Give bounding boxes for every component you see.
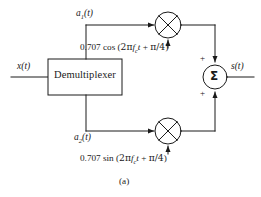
carrier-cos-two-pi: 2π (121, 41, 133, 52)
signal-output-arg: (t) (235, 61, 244, 71)
carrier-sin-two-pi: 2π (119, 152, 131, 163)
carrier-sin-close-paren: ) (164, 153, 167, 163)
carrier-cos-function: cos (103, 42, 115, 52)
carrier-expression-sine: 0.707 sin (2πfct + π/4) (80, 153, 167, 165)
summer-plus-sign-top: + (200, 54, 205, 63)
demultiplexer-label: Demultiplexer (54, 70, 116, 81)
summer-plus-sign-bottom: + (200, 89, 205, 98)
carrier-sin-phase: π/4 (149, 152, 164, 163)
signal-a2-arg: (t) (82, 132, 91, 142)
signal-label-input-xt: x(t) (17, 62, 30, 72)
carrier-sin-function: sin (103, 153, 114, 163)
summer-sigma-glyph: Σ (210, 70, 218, 82)
signal-label-branch-a1: a1(t) (76, 9, 93, 20)
carrier-sin-amplitude: 0.707 (80, 153, 101, 163)
carrier-expression-cosine: 0.707 cos (2πfct + π/4) (80, 42, 168, 54)
figure-quadrature-modulator-diagram: Demultiplexer Σ + + x(t) a1(t) a2(t) s(t… (0, 0, 261, 197)
diagram-canvas (0, 0, 261, 197)
carrier-cos-amplitude: 0.707 (80, 42, 101, 52)
carrier-cos-close-paren: ) (165, 42, 168, 52)
carrier-cos-phase: π/4 (150, 41, 165, 52)
signal-input-arg: (t) (21, 61, 30, 71)
signal-label-branch-a2: a2(t) (74, 133, 91, 144)
figure-caption: (a) (119, 177, 129, 186)
signal-label-output-st: s(t) (231, 62, 244, 72)
signal-a1-arg: (t) (84, 8, 93, 18)
